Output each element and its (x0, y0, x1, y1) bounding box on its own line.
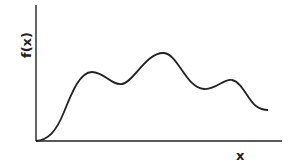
function-plot: f(x) x (0, 0, 295, 168)
y-axis-label: f(x) (19, 32, 34, 58)
function-curve (36, 53, 268, 141)
x-axis-label: x (236, 148, 245, 163)
